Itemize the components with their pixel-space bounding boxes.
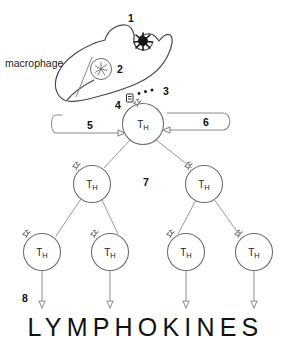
callout-3-label: 3 (163, 85, 169, 97)
secretion-arrowhead (183, 301, 189, 308)
helper-t-cell-1: TH (23, 230, 61, 270)
macrophage-outline (55, 25, 172, 102)
callout-5-label: 5 (87, 119, 93, 131)
helper-t-cell-left: TH (73, 162, 111, 202)
mhc-molecule (127, 94, 134, 102)
secretion-arrowhead (39, 301, 45, 308)
helper-t-cell-2: TH (91, 230, 129, 270)
lymphokine-secretion-arrows (39, 271, 257, 308)
antigen-fragment-dot (138, 92, 141, 95)
interleukin-1-arrow-path (52, 115, 119, 133)
macrophage-nucleus (91, 59, 112, 80)
t-cell-receptor-icon (23, 230, 30, 237)
interleukin-2-loop (163, 113, 230, 133)
antigen-fragment-dot (151, 89, 154, 92)
helper-t-cell-right: TH (185, 162, 223, 202)
interleukin-2-loop-path (167, 113, 230, 130)
antigen-fragment-dot (144, 90, 147, 93)
callout-7-label: 7 (143, 176, 149, 188)
secretion-arrowhead (107, 301, 113, 308)
t-cell-receptor-icon (167, 230, 174, 237)
callout-6-label: 6 (203, 116, 209, 128)
t-cell-receptor-icon (73, 162, 80, 169)
division-link (214, 199, 240, 236)
antigen-core (138, 36, 147, 45)
callout-2-label: 2 (117, 63, 123, 75)
callout-4-label: 4 (115, 99, 121, 111)
macrophage-label: macrophage (5, 57, 64, 69)
division-link (156, 140, 192, 168)
helper-t-cell-3: TH (167, 230, 205, 270)
th-sub-letter: H (143, 123, 148, 132)
diagram-canvas: TH TH TH (0, 0, 286, 346)
immune-response-diagram: TH TH TH (0, 0, 286, 346)
helper-t-cell-parent: TH (123, 99, 164, 144)
helper-t-cell-4: TH (235, 230, 273, 270)
division-link (104, 140, 130, 168)
division-link (56, 199, 81, 236)
interleukin-2-arrowhead (163, 127, 170, 133)
secretion-arrowhead (251, 301, 257, 308)
division-link (178, 200, 196, 234)
lymphokines-title: LYMPHOKINES (0, 313, 286, 342)
t-cell-receptor-icon (91, 230, 98, 237)
callout-8-label: 8 (22, 292, 28, 304)
macrophage-group (55, 25, 172, 102)
division-link (102, 200, 118, 234)
callout-1-label: 1 (128, 12, 134, 24)
antigen-particle (134, 33, 152, 50)
mhc-presentation-group (127, 89, 154, 103)
